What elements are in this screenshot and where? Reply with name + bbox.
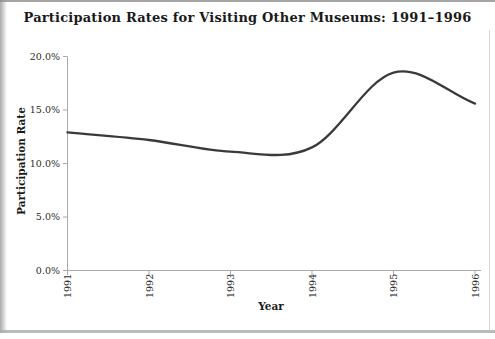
y-tick-label: 5.0% [36,211,60,222]
y-tick-label: 10.0% [30,158,60,169]
scan-edge-left [0,0,7,333]
y-tick-label: 0.0% [36,265,60,276]
x-axis-title: Year [221,300,321,312]
y-axis-title: Participation Rate [15,61,27,261]
x-tick-label: 1993 [225,274,236,298]
scan-edge-bottom [0,330,495,333]
x-tick-label: 1996 [470,274,481,298]
scan-edge-right [489,30,491,331]
x-tick-label: 1991 [62,274,73,298]
x-tick-label: 1992 [144,274,155,298]
y-tick-label: 20.0% [30,51,60,62]
x-tick-label: 1995 [388,274,399,298]
chart-plot-area: 0.0%5.0%10.0%15.0%20.0%19911992199319941… [0,0,495,339]
y-tick-label: 15.0% [30,104,60,115]
scan-edge-top [0,0,495,2]
series-line [68,71,476,155]
chart-figure: Participation Rates for Visiting Other M… [0,0,495,339]
x-tick-label: 1994 [307,274,318,298]
